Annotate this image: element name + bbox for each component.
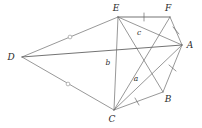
vertex-label-E: E bbox=[112, 3, 120, 13]
edge-layer bbox=[22, 17, 182, 110]
edge-E-A bbox=[118, 17, 182, 45]
geometry-figure: E F A D B C b c a bbox=[0, 0, 202, 128]
edge-E-C bbox=[114, 17, 118, 110]
congruence-circle-DE bbox=[68, 35, 72, 39]
congruence-tick-BC bbox=[135, 98, 139, 105]
vertex-label-B: B bbox=[164, 94, 172, 104]
vertex-label-C: C bbox=[109, 114, 116, 124]
edge-F-C bbox=[114, 17, 170, 110]
vertex-label-layer: E F A D B C bbox=[6, 3, 193, 124]
congruence-circle-DC bbox=[66, 82, 70, 86]
interior-label-layer: b c a bbox=[106, 28, 142, 83]
edge-B-C bbox=[114, 92, 163, 110]
congruence-tick-AB bbox=[169, 65, 176, 71]
interior-label-c: c bbox=[137, 28, 142, 37]
congruence-tick-FA bbox=[173, 27, 179, 34]
vertex-label-D: D bbox=[6, 52, 14, 62]
mark-layer bbox=[66, 13, 179, 105]
edge-A-C bbox=[114, 45, 182, 110]
vertex-label-A: A bbox=[186, 40, 194, 50]
interior-label-b: b bbox=[106, 58, 111, 67]
vertex-label-F: F bbox=[164, 3, 172, 13]
interior-label-a: a bbox=[134, 74, 138, 83]
edge-A-B bbox=[163, 45, 182, 92]
